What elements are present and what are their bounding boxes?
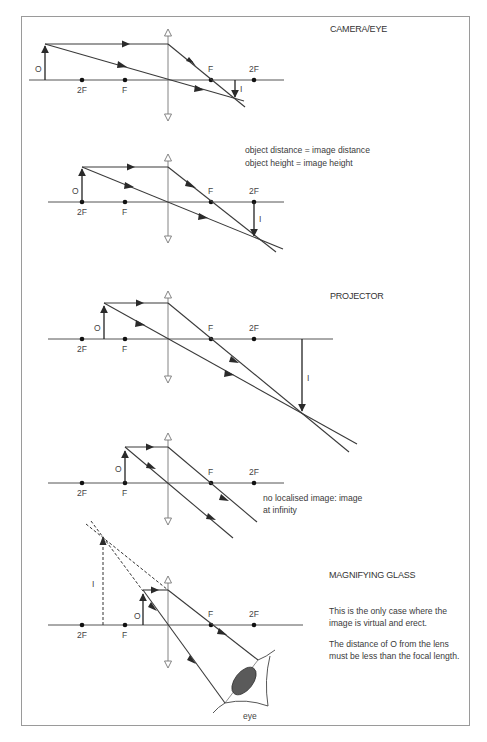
label-image: I	[259, 214, 261, 224]
label-f-left: F	[122, 207, 127, 217]
note-height: object height = image height	[245, 158, 353, 168]
lens-bottom-arrow-icon	[165, 114, 172, 121]
focal-point-f-left	[123, 337, 128, 342]
label-2f-left: 2F	[77, 85, 87, 95]
focal-point-2f-left	[80, 623, 85, 628]
label-2f-right: 2F	[249, 467, 259, 477]
label-2f-right: 2F	[249, 609, 259, 619]
note-at-infinity: at infinity	[263, 505, 298, 515]
lens-top-arrow-icon	[165, 576, 172, 583]
label-f-right: F	[208, 609, 213, 619]
label-f-left: F	[122, 488, 127, 498]
label-f-left: F	[122, 85, 127, 95]
label-image: I	[240, 84, 242, 94]
diagram-object-at-2f: object distance = image distance object …	[48, 145, 370, 252]
label-2f-left: 2F	[77, 344, 87, 354]
label-image: I	[92, 579, 94, 589]
note-distance: object distance = image distance	[245, 145, 370, 155]
lens-bottom-arrow-icon	[165, 236, 172, 243]
focal-point-f-left	[123, 200, 128, 205]
lens-bottom-arrow-icon	[165, 376, 172, 383]
lens-top-arrow-icon	[165, 291, 172, 298]
label-object: O	[72, 186, 79, 196]
label-object: O	[94, 323, 101, 333]
label-2f-left: 2F	[77, 488, 87, 498]
focal-point-2f-left	[80, 78, 85, 83]
lens-bottom-arrow-icon	[165, 518, 172, 525]
label-eye: eye	[243, 711, 257, 721]
focal-point-f-left	[123, 78, 128, 83]
title-magnifying-glass: MAGNIFYING GLASS	[329, 570, 416, 580]
label-f-right: F	[208, 64, 213, 74]
label-2f-left: 2F	[77, 630, 87, 640]
label-image: I	[307, 373, 309, 383]
note-no-image: no localised image: image	[263, 493, 363, 503]
label-f-left: F	[122, 630, 127, 640]
label-2f-right: 2F	[249, 323, 259, 333]
label-2f-right: 2F	[249, 186, 259, 196]
note-virtual-2: image is virtual and erect.	[329, 618, 427, 628]
diagram-magnifying-glass: MAGNIFYING GLASS This is the only case w…	[48, 521, 459, 721]
eye-icon	[213, 650, 275, 713]
lens-bottom-arrow-icon	[165, 661, 172, 668]
focal-point-2f-right	[252, 337, 257, 342]
focal-point-2f-left	[80, 481, 85, 486]
note-distance-2: must be less than the focal length.	[329, 651, 459, 661]
label-object: O	[35, 64, 42, 74]
lens-top-arrow-icon	[165, 433, 172, 440]
label-object: O	[115, 464, 122, 474]
focal-point-2f-right	[252, 78, 257, 83]
focal-point-2f-right	[252, 623, 257, 628]
label-2f-right: 2F	[249, 64, 259, 74]
diagram-camera-eye: CAMERA/EYE 2F F F 2F O I	[29, 24, 387, 121]
convex-lens-ray-diagrams: CAMERA/EYE 2F F F 2F O I object	[0, 0, 487, 742]
focal-point-2f-left	[80, 337, 85, 342]
lens-top-arrow-icon	[165, 29, 172, 36]
label-f-left: F	[122, 344, 127, 354]
lens-top-arrow-icon	[165, 154, 172, 161]
diagram-projector: PROJECTOR 2F F F 2F O I	[48, 291, 384, 452]
focal-point-f-left	[123, 623, 128, 628]
title-projector: PROJECTOR	[330, 291, 384, 301]
diagram-object-at-f: 2F F F 2F O no localised image: image at…	[48, 433, 363, 538]
label-f-right: F	[208, 186, 213, 196]
label-object: O	[134, 611, 141, 621]
focal-point-2f-right	[252, 481, 257, 486]
title-camera-eye: CAMERA/EYE	[330, 24, 387, 34]
label-f-right: F	[208, 323, 213, 333]
note-distance-1: The distance of O from the lens	[329, 639, 449, 649]
label-2f-left: 2F	[77, 207, 87, 217]
note-virtual-1: This is the only case where the	[329, 606, 447, 616]
label-f-right: F	[208, 467, 213, 477]
convex-lens	[165, 29, 172, 121]
